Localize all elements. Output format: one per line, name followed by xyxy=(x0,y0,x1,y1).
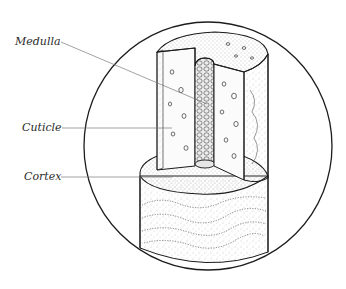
medulla-base xyxy=(195,160,215,168)
hair-shaft xyxy=(140,32,268,263)
label-cuticle: Cuticle xyxy=(22,121,62,134)
label-medulla: Medulla xyxy=(14,35,61,48)
cortex-right-face xyxy=(214,64,244,180)
hair-structure-diagram: Medulla Cuticle Cortex xyxy=(0,0,346,289)
cuticle-left-strip xyxy=(157,50,163,170)
medulla-core xyxy=(195,58,214,167)
label-cortex: Cortex xyxy=(24,170,62,183)
